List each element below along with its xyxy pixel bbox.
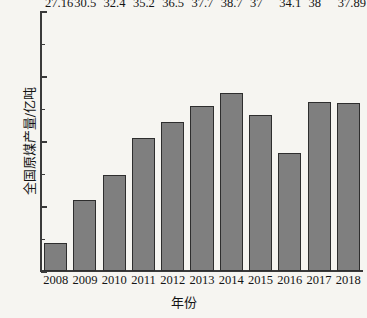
x-tick-label: 2009 bbox=[70, 274, 99, 287]
bar-item: 37.89 bbox=[337, 11, 360, 271]
bar-series: 27.1630.532.435.236.537.738.73734.13837.… bbox=[41, 11, 363, 271]
bar-value-label: 34.1 bbox=[279, 0, 301, 10]
bar-item: 32.4 bbox=[103, 11, 126, 271]
bar-value-label: 38.7 bbox=[221, 0, 243, 10]
bar-item: 30.5 bbox=[73, 11, 96, 271]
bar: 36.5 bbox=[161, 122, 184, 272]
x-tick-label: 2011 bbox=[129, 274, 158, 287]
x-tick-label: 2018 bbox=[334, 274, 363, 287]
bar: 35.2 bbox=[132, 138, 155, 271]
bar-value-label: 35.2 bbox=[133, 0, 155, 10]
bar: 30.5 bbox=[73, 200, 96, 272]
x-tick-label: 2013 bbox=[187, 274, 216, 287]
bar-value-label: 37.89 bbox=[338, 0, 366, 10]
bar-item: 37 bbox=[249, 11, 272, 271]
bar: 34.1 bbox=[278, 153, 301, 271]
x-tick-label: 2010 bbox=[100, 274, 129, 287]
y-axis-title-wrapper: 全国原煤产量/亿吨 bbox=[14, 11, 15, 271]
bar: 38.7 bbox=[220, 93, 243, 271]
bar-item: 38.7 bbox=[220, 11, 243, 271]
x-tick-label: 2016 bbox=[275, 274, 304, 287]
x-tick-label: 2012 bbox=[158, 274, 187, 287]
bar: 37 bbox=[249, 115, 272, 271]
bar: 38 bbox=[308, 102, 331, 271]
y-axis-title: 全国原煤产量/亿吨 bbox=[19, 51, 38, 231]
x-axis-title: 年份 bbox=[0, 292, 367, 311]
bar-item: 34.1 bbox=[278, 11, 301, 271]
bar-value-label: 32.4 bbox=[104, 0, 126, 10]
bar-item: 37.7 bbox=[190, 11, 213, 271]
x-tick-label: 2014 bbox=[217, 274, 246, 287]
bar-value-label: 36.5 bbox=[162, 0, 184, 10]
bar-value-label: 27.16 bbox=[45, 0, 73, 10]
bar-chart: 2530354045 27.1630.532.435.236.537.738.7… bbox=[0, 0, 367, 318]
x-tick-label: 2015 bbox=[246, 274, 275, 287]
bar-item: 36.5 bbox=[161, 11, 184, 271]
bar-item: 27.16 bbox=[44, 11, 67, 271]
bar-value-label: 37 bbox=[250, 0, 263, 10]
bar: 37.7 bbox=[190, 106, 213, 271]
bar: 32.4 bbox=[103, 175, 126, 271]
bar-value-label: 37.7 bbox=[191, 0, 213, 10]
bar-item: 35.2 bbox=[132, 11, 155, 271]
bar: 37.89 bbox=[337, 103, 360, 271]
bar-value-label: 30.5 bbox=[74, 0, 96, 10]
x-tick-label: 2017 bbox=[304, 274, 333, 287]
bar-item: 38 bbox=[308, 11, 331, 271]
bar: 27.16 bbox=[44, 243, 67, 271]
x-tick-label: 2008 bbox=[41, 274, 70, 287]
bar-value-label: 38 bbox=[309, 0, 322, 10]
